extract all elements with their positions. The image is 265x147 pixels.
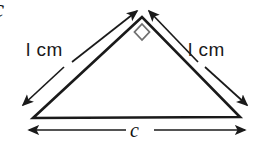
base-length-label: c [130,120,139,140]
right-leg-length-label: l cm [188,40,225,59]
right-angle-marker-icon [135,24,150,40]
left-leg-arrow-to-bottom-left [23,67,64,105]
geometry-figure: c l cm l cm c [0,0,265,147]
left-leg-length-label: l cm [26,40,63,59]
left-leg-arrow-to-apex [72,11,137,62]
